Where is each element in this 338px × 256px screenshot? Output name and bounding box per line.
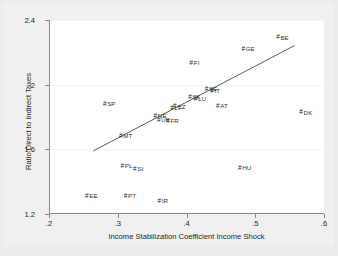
x-tick-mark: [118, 214, 119, 218]
x-tick-mark: [49, 214, 50, 218]
point-label: LT: [175, 105, 182, 111]
data-point: #FR: [166, 117, 179, 124]
point-marker-icon: #: [166, 117, 170, 123]
x-tick-label: .3: [115, 219, 121, 228]
point-marker-icon: #: [120, 162, 124, 168]
data-point: #EE: [85, 192, 98, 199]
x-tick-label: .6: [321, 219, 327, 228]
data-point: #SI: [133, 165, 143, 172]
y-axis-title: Ratio Direct to Indirect Taxes: [24, 47, 33, 197]
point-label: EE: [89, 193, 97, 199]
point-marker-icon: #: [158, 198, 162, 204]
data-point: #BE: [276, 34, 289, 41]
chart-canvas: Ratio Direct to Indirect Taxes 1.21.622.…: [4, 3, 334, 246]
point-marker-icon: #: [85, 192, 89, 198]
point-marker-icon: #: [170, 104, 174, 110]
y-tick-label: 2: [31, 80, 35, 89]
data-point: #LT: [170, 104, 181, 111]
point-marker-icon: #: [157, 116, 161, 122]
point-marker-icon: #: [241, 45, 245, 51]
x-tick-mark: [187, 214, 188, 218]
point-marker-icon: #: [216, 102, 220, 108]
point-marker-icon: #: [119, 133, 123, 139]
point-marker-icon: #: [133, 165, 137, 171]
data-point: #HU: [238, 164, 251, 171]
data-point: #AT: [216, 102, 228, 109]
point-label: PT: [128, 193, 136, 199]
point-marker-icon: #: [238, 164, 242, 170]
chart-figure: Ratio Direct to Indirect Taxes 1.21.622.…: [0, 0, 338, 256]
point-label: SI: [137, 166, 143, 172]
data-point: #LU: [194, 96, 206, 103]
y-tick-label: 2.4: [24, 16, 35, 25]
point-marker-icon: #: [124, 192, 128, 198]
point-label: GE: [246, 46, 255, 52]
point-label: AT: [220, 102, 228, 108]
fitted-regression-line: [50, 20, 324, 213]
point-marker-icon: #: [194, 96, 198, 102]
x-tick-label: .4: [183, 219, 189, 228]
x-tick-mark: [324, 214, 325, 218]
x-tick-label: .5: [252, 219, 258, 228]
data-point: #PL: [120, 162, 132, 169]
data-point: #DK: [299, 109, 312, 116]
y-tick-label: 1.2: [24, 210, 35, 219]
point-marker-icon: #: [210, 87, 214, 93]
x-axis-title: Income Stabilization Coefficient Income …: [49, 232, 324, 241]
point-label: SP: [107, 101, 115, 107]
x-tick-mark: [255, 214, 256, 218]
data-point: #IR: [158, 198, 169, 205]
point-label: PL: [125, 162, 133, 168]
point-marker-icon: #: [188, 94, 192, 100]
data-point: #IT: [210, 87, 220, 94]
point-marker-icon: #: [299, 109, 303, 115]
data-point: #GE: [241, 45, 254, 52]
point-label: HU: [242, 165, 251, 171]
data-point: #MT: [119, 133, 132, 140]
point-label: IR: [162, 198, 168, 204]
point-label: MT: [123, 133, 132, 139]
point-label: IT: [214, 88, 220, 94]
data-point: #PT: [124, 192, 136, 199]
point-marker-icon: #: [190, 59, 194, 65]
point-marker-icon: #: [205, 85, 209, 91]
y-tick-label: 1.6: [24, 145, 35, 154]
point-marker-icon: #: [276, 34, 280, 40]
point-label: BE: [280, 34, 288, 40]
point-label: FI: [194, 59, 200, 65]
point-label: LU: [198, 96, 206, 102]
point-label: DK: [304, 109, 313, 115]
data-point: #FI: [190, 59, 200, 66]
point-label: FR: [170, 117, 178, 123]
plot-area: #BE#GE#FI#DK#AT#SP#SE#IT#SK#LU#CZ#LT#NE#…: [49, 20, 324, 214]
point-marker-icon: #: [103, 100, 107, 106]
x-tick-label: .2: [46, 219, 52, 228]
data-point: #SP: [103, 100, 116, 107]
